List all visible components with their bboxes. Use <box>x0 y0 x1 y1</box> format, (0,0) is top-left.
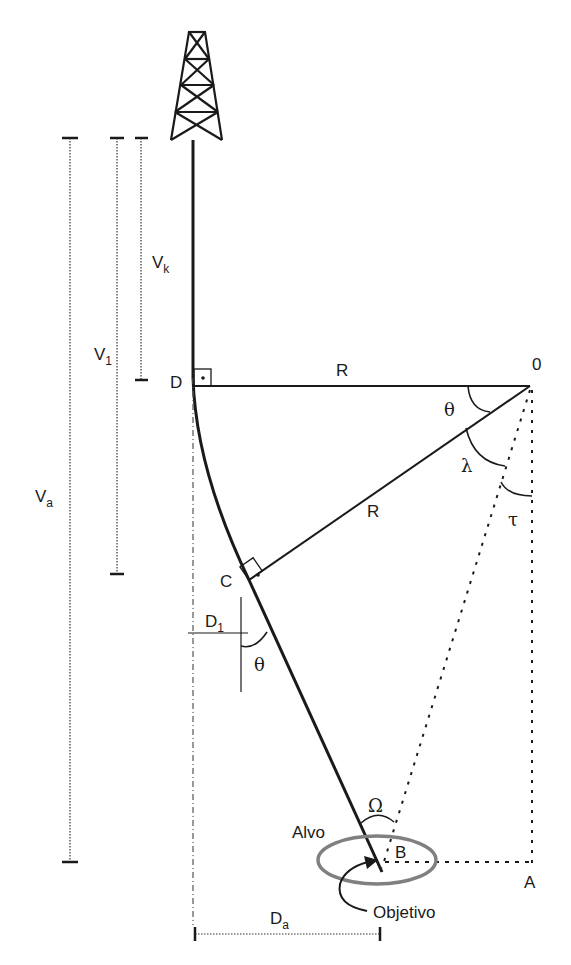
theta-arc-c <box>241 632 267 647</box>
label-da: Da <box>270 909 289 932</box>
drilling-rig-icon <box>171 32 222 140</box>
label-radius-top: R <box>336 361 348 380</box>
dimension-v1 <box>110 138 124 574</box>
objective-arrow <box>340 862 368 911</box>
tau-arc <box>501 482 532 496</box>
label-vk: Vk <box>152 253 170 276</box>
label-target: Alvo <box>292 823 325 842</box>
build-curve <box>193 378 249 580</box>
label-point-a: A <box>524 873 536 892</box>
omega-arc <box>361 815 394 823</box>
label-omega: Ω <box>368 795 383 816</box>
theta-arc-o <box>468 386 490 412</box>
label-point-o: 0 <box>532 355 541 374</box>
radius-oc <box>249 386 530 580</box>
label-point-c: C <box>220 572 232 591</box>
label-d1: D1 <box>205 612 224 635</box>
label-v1: V1 <box>94 345 112 368</box>
label-objective: Objetivo <box>373 903 435 922</box>
label-theta-bottom: θ <box>254 654 265 675</box>
label-radius-mid: R <box>367 502 379 521</box>
label-point-b: B <box>395 843 406 862</box>
label-lambda: λ <box>461 455 472 476</box>
dimension-va <box>62 138 78 862</box>
label-point-d: D <box>170 373 182 392</box>
label-theta-top: θ <box>444 399 455 420</box>
label-va: Va <box>35 487 53 510</box>
dimension-vk <box>135 138 148 380</box>
line-ob <box>382 390 530 868</box>
label-tau: τ <box>508 509 518 530</box>
well-diagram: Vk V1 Va D R 0 θ λ τ R C D1 θ Ω Alvo B A… <box>0 0 571 965</box>
